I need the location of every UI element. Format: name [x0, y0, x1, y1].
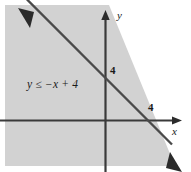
x-intercept-tick-label: 4 — [148, 102, 154, 113]
inequality-figure: 4 4 y x y ≤ −x + 4 — [0, 0, 191, 172]
inequality-annotation: y ≤ −x + 4 — [27, 79, 78, 91]
x-axis-arrowhead — [172, 117, 182, 125]
y-axis-label: y — [117, 10, 122, 21]
x-axis-label: x — [172, 126, 177, 137]
y-intercept-tick-label: 4 — [110, 65, 116, 76]
